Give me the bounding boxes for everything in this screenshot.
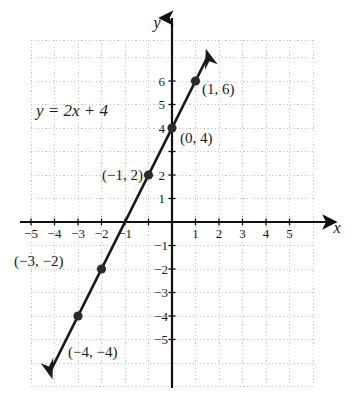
point-label-neg4-neg4: (−4, −4): [68, 344, 117, 361]
x-tick-4: 4: [263, 226, 270, 241]
x-tick-3: 3: [239, 226, 246, 241]
point-label-1-6: (1, 6): [202, 81, 235, 98]
data-point-neg1-2: [144, 170, 153, 179]
y-tick-neg3: −3: [154, 285, 168, 300]
x-tick-2: 2: [216, 226, 223, 241]
y-tick-2: 2: [159, 168, 166, 183]
point-label-neg3-neg2: (−3, −2): [14, 253, 63, 270]
equation-label: y = 2x + 4: [34, 101, 109, 120]
coordinate-graph: y x −5 −4 −3 −2 −1 1 2 3 4 5 6 5 4 2 1 −…: [0, 0, 360, 399]
y-tick-1: 1: [159, 191, 166, 206]
y-axis-label: y: [151, 14, 161, 32]
x-tick-neg3: −3: [71, 226, 85, 241]
y-tick-neg2: −2: [154, 262, 168, 277]
y-tick-6: 6: [159, 74, 166, 89]
x-tick-5: 5: [286, 226, 293, 241]
x-tick-1: 1: [192, 226, 199, 241]
data-point-0-4: [167, 123, 176, 132]
data-point-neg3-neg2: [97, 264, 106, 273]
data-point-neg4-neg4: [73, 311, 82, 320]
y-tick-neg5: −5: [154, 332, 168, 347]
x-tick-neg1: −1: [118, 226, 132, 241]
point-label-neg1-2: (−1, 2): [102, 167, 143, 184]
x-tick-neg2: −2: [95, 226, 109, 241]
y-tick-neg4: −4: [154, 309, 168, 324]
y-tick-neg1: −1: [154, 238, 168, 253]
y-tick-4: 4: [159, 121, 166, 136]
graph-canvas: y x −5 −4 −3 −2 −1 1 2 3 4 5 6 5 4 2 1 −…: [0, 0, 360, 399]
point-label-0-4: (0, 4): [180, 130, 213, 147]
x-axis-label: x: [332, 219, 340, 236]
data-point-1-6: [191, 76, 200, 85]
x-tick-neg5: −5: [24, 226, 38, 241]
y-tick-5: 5: [159, 97, 166, 112]
x-tick-neg4: −4: [48, 226, 62, 241]
